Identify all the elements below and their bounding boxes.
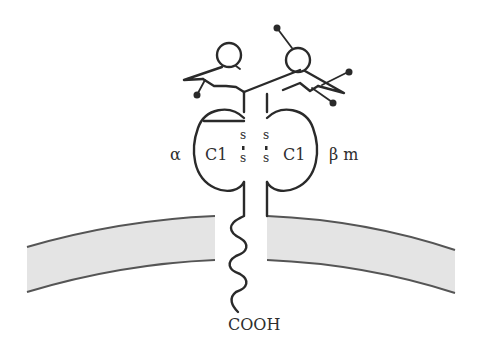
membrane-left (27, 216, 215, 292)
beta-m-label: β m (329, 145, 359, 164)
disulfide-bond-left: s s (240, 128, 246, 165)
c1-left-label: C1 (205, 145, 227, 164)
sulfur-label: s (240, 151, 246, 165)
sulfur-label: s (240, 128, 246, 142)
disulfide-bond-right: s s (263, 128, 269, 165)
sulfur-label: s (263, 151, 269, 165)
left-circle-icon (217, 43, 241, 67)
cooh-label: COOH (228, 315, 280, 334)
protein-membrane-diagram: s s s s α C1 C1 β m (0, 0, 482, 348)
sulfur-label: s (263, 128, 269, 142)
binding-region (184, 25, 353, 107)
c1-right-label: C1 (283, 145, 305, 164)
right-circle-icon (286, 48, 310, 72)
alpha-chain (230, 92, 247, 312)
alpha-label: α (170, 145, 181, 164)
membrane-right (267, 216, 455, 293)
